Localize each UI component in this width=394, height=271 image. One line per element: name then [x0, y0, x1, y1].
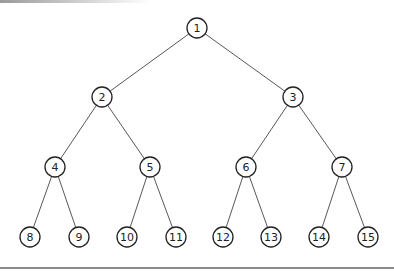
- node-label: 1: [194, 22, 201, 35]
- node-label: 4: [52, 161, 59, 174]
- tree-edge-3-6: [252, 105, 288, 158]
- tree-edge-1-2: [110, 34, 189, 91]
- node-label: 12: [216, 231, 230, 244]
- tree-node-1: 1: [187, 18, 207, 38]
- tree-node-3: 3: [283, 87, 303, 107]
- tree-edge-7-15: [345, 176, 364, 227]
- tree-node-15: 15: [358, 227, 378, 247]
- tree-edge-4-8: [33, 176, 51, 227]
- node-label: 8: [27, 231, 34, 244]
- tree-node-7: 7: [332, 157, 352, 177]
- tree-node-9: 9: [69, 227, 89, 247]
- node-label: 2: [99, 91, 106, 104]
- bottom-rule-line: [0, 267, 394, 269]
- tree-node-6: 6: [236, 157, 256, 177]
- node-label: 11: [169, 231, 183, 244]
- tree-edge-7-14: [322, 177, 339, 228]
- tree-edge-2-4: [61, 105, 97, 158]
- node-label: 6: [243, 161, 250, 174]
- tree-node-13: 13: [261, 227, 281, 247]
- tree-edge-4-9: [58, 176, 76, 227]
- tree-edge-5-10: [130, 177, 147, 228]
- node-label: 15: [361, 231, 375, 244]
- tree-node-10: 10: [117, 227, 137, 247]
- tree-node-12: 12: [213, 227, 233, 247]
- tree-node-4: 4: [45, 157, 65, 177]
- tree-edge-2-5: [108, 105, 145, 159]
- tree-edge-1-3: [205, 34, 285, 91]
- node-label: 9: [76, 231, 83, 244]
- tree-edge-6-13: [249, 176, 267, 227]
- tree-node-14: 14: [309, 227, 329, 247]
- tree-edge-6-12: [226, 177, 243, 228]
- tree-node-2: 2: [92, 87, 112, 107]
- node-label: 10: [120, 231, 134, 244]
- tree-node-11: 11: [166, 227, 186, 247]
- binary-tree-diagram: 123456789101112131415: [0, 0, 394, 271]
- node-label: 14: [312, 231, 326, 244]
- node-label: 3: [290, 91, 297, 104]
- node-label: 13: [264, 231, 278, 244]
- tree-node-5: 5: [140, 157, 160, 177]
- node-label: 5: [147, 161, 154, 174]
- tree-edge-3-7: [299, 105, 337, 159]
- tree-node-8: 8: [20, 227, 40, 247]
- tree-edges: [33, 34, 364, 228]
- tree-edge-5-11: [153, 176, 172, 227]
- node-label: 7: [339, 161, 346, 174]
- tree-nodes: 123456789101112131415: [20, 18, 378, 247]
